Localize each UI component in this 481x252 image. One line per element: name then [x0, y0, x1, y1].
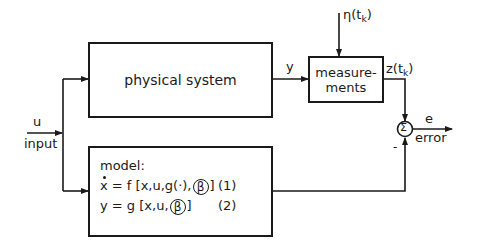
measured-arg-close: ) [408, 61, 413, 76]
equation2-rhs: = g [x,u, [112, 198, 169, 213]
error-symbol: e [425, 112, 433, 125]
noise-arg-close: ) [367, 7, 372, 22]
y-symbol: y [100, 198, 108, 213]
circled-beta-icon: β [170, 199, 186, 215]
output-y-label: y [286, 60, 294, 73]
measurements-label-line1: measure- [315, 65, 376, 80]
input-label: input [24, 137, 57, 150]
equation1-close: ] [210, 178, 215, 193]
measured-symbol: z [386, 61, 393, 76]
physical-system-label: physical system [124, 72, 236, 88]
measured-label: z(tk) [386, 62, 413, 78]
model-equation-2: y = g [x,u,β] (2) [100, 196, 215, 216]
model-output-wire [272, 138, 405, 191]
equation2-close: ] [187, 198, 192, 213]
noise-arg: (t [351, 7, 361, 22]
measurements-block: measure- ments [308, 56, 384, 103]
input-symbol: u [33, 115, 41, 128]
model-equation-1: x = f [x,u,g(·),β] (1) [100, 176, 215, 196]
model-block: model: x = f [x,u,g(·),β] (1) y = g [x,u… [88, 146, 273, 237]
sigma-symbol: Σ [400, 122, 407, 133]
noise-symbol: η [343, 7, 351, 22]
minus-sign: - [393, 141, 397, 153]
noise-label: η(tk) [343, 8, 372, 24]
equation2-number: (2) [218, 196, 236, 216]
equation1-number: (1) [218, 176, 236, 196]
equation1-rhs: = f [x,u,g(·), [112, 178, 192, 193]
physical-system-block: physical system [88, 42, 273, 118]
measured-arg: (t [393, 61, 403, 76]
error-label: error [415, 131, 446, 144]
measured-wire [383, 79, 405, 121]
circled-beta-icon: β [193, 179, 209, 195]
model-title: model: [100, 156, 215, 176]
x-dot-symbol: x [100, 176, 108, 196]
measurements-label-line2: ments [326, 80, 367, 95]
